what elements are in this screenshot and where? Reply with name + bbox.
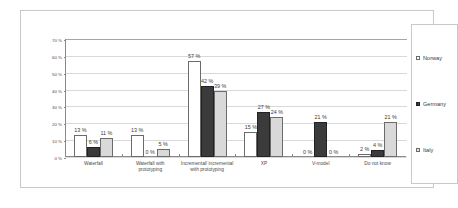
bar-slot: 21 % <box>384 39 397 157</box>
bar-germany[interactable] <box>201 86 214 157</box>
bar-slot: 11 % <box>100 39 113 157</box>
bar-value-label: 13 % <box>74 127 86 133</box>
category-separator <box>292 154 293 157</box>
bar-value-label: 6 % <box>89 139 98 145</box>
x-axis-labels: WaterfallWaterfall with prototypingIncre… <box>65 161 406 174</box>
y-axis-tick-label: 70 % <box>52 38 62 43</box>
y-axis-tick-label: 10 % <box>52 139 62 144</box>
bar-slot: 2 % <box>358 39 371 157</box>
bar-group-bars: 13 %6 %11 % <box>65 39 122 157</box>
bar-slot: 0 % <box>144 39 157 157</box>
bar-value-label: 39 % <box>214 83 226 89</box>
chart-frame: 0 %10 %20 %30 %40 %50 %60 %70 % 13 %6 %1… <box>20 10 434 188</box>
bar-slot: 39 % <box>214 39 227 157</box>
legend-swatch-icon <box>416 56 420 60</box>
bar-value-label: 15 % <box>245 124 257 130</box>
x-axis-category-label: Waterfall with prototyping <box>122 161 179 174</box>
bar-slot: 0 % <box>327 39 340 157</box>
bar-germany[interactable] <box>314 122 327 157</box>
y-axis-tick-label: 50 % <box>52 71 62 76</box>
bar-italy[interactable] <box>270 117 283 157</box>
bar-norway[interactable] <box>188 61 201 157</box>
bar-slot: 5 % <box>157 39 170 157</box>
category-separator <box>235 154 236 157</box>
bar-slot: 42 % <box>201 39 214 157</box>
bar-slot: 57 % <box>188 39 201 157</box>
legend-label: Germany <box>423 101 446 108</box>
bar-group: 2 %4 %21 % <box>349 39 406 157</box>
y-axis-tick-label: 60 % <box>52 54 62 59</box>
bar-group-bars: 2 %4 %21 % <box>349 39 406 157</box>
bar-group: 15 %27 %24 % <box>235 39 292 157</box>
bar-value-label: 24 % <box>271 109 283 115</box>
x-axis-category-label: Incremental/ incremental with prototypin… <box>179 161 236 174</box>
legend-swatch-icon <box>416 102 420 106</box>
bar-slot: 15 % <box>244 39 257 157</box>
legend-item-norway[interactable]: Norway <box>412 55 457 62</box>
bar-group-bars: 13 %0 %5 % <box>122 39 179 157</box>
gridline: 0 % <box>66 157 407 158</box>
bar-italy[interactable] <box>384 122 397 157</box>
bar-group: 0 %21 %0 % <box>292 39 349 157</box>
bar-italy[interactable] <box>157 149 170 157</box>
bar-slot: 13 % <box>131 39 144 157</box>
y-axis-tick-label: 30 % <box>52 105 62 110</box>
bar-group: 13 %6 %11 % <box>65 39 122 157</box>
bar-value-label: 4 % <box>373 142 382 148</box>
bar-italy[interactable] <box>214 91 227 157</box>
x-axis-category-label: Waterfall <box>65 161 122 174</box>
legend-item-germany[interactable]: Germany <box>412 101 457 108</box>
bar-group-bars: 0 %21 %0 % <box>292 39 349 157</box>
bar-value-label: 13 % <box>131 127 143 133</box>
bar-value-label: 21 % <box>384 114 396 120</box>
bar-group-bars: 57 %42 %39 % <box>179 39 236 157</box>
bar-slot: 13 % <box>74 39 87 157</box>
bar-norway[interactable] <box>244 132 257 157</box>
bar-slot: 27 % <box>257 39 270 157</box>
x-axis-category-label: V-model <box>292 161 349 174</box>
bar-norway[interactable] <box>131 135 144 157</box>
bar-value-label: 42 % <box>201 78 213 84</box>
chart-legend: NorwayGermanyItaly <box>411 24 458 184</box>
x-axis-category-label: XP <box>235 161 292 174</box>
bar-group: 13 %0 %5 % <box>122 39 179 157</box>
bar-value-label: 2 % <box>360 146 369 152</box>
bar-slot: 21 % <box>314 39 327 157</box>
legend-swatch-icon <box>416 148 420 152</box>
bar-germany[interactable] <box>87 147 100 157</box>
bar-value-label: 21 % <box>315 114 327 120</box>
category-separator <box>122 154 123 157</box>
bar-value-label: 0 % <box>329 149 338 155</box>
legend-label: Italy <box>423 147 433 154</box>
bar-value-label: 27 % <box>258 104 270 110</box>
legend-item-italy[interactable]: Italy <box>412 147 457 154</box>
bar-value-label: 57 % <box>188 53 200 59</box>
bar-italy[interactable] <box>100 138 113 157</box>
bar-value-label: 0 % <box>146 149 155 155</box>
bar-norway[interactable] <box>358 154 371 157</box>
bar-value-label: 0 % <box>303 149 312 155</box>
bar-value-label: 5 % <box>159 141 168 147</box>
bar-slot: 0 % <box>301 39 314 157</box>
x-axis-category-label: Do not know <box>349 161 406 174</box>
bar-value-label: 11 % <box>100 130 112 136</box>
bar-germany[interactable] <box>371 150 384 157</box>
bar-group-bars: 15 %27 %24 % <box>235 39 292 157</box>
y-axis-tick-label: 20 % <box>52 122 62 127</box>
y-axis-tick-mark <box>64 158 66 159</box>
legend-label: Norway <box>423 55 442 62</box>
category-separator <box>179 154 180 157</box>
y-axis-tick-label: 0 % <box>54 156 62 161</box>
bar-norway[interactable] <box>74 135 87 157</box>
bar-group: 57 %42 %39 % <box>179 39 236 157</box>
bar-slot: 24 % <box>270 39 283 157</box>
bar-slot: 4 % <box>371 39 384 157</box>
category-separator <box>349 154 350 157</box>
bar-slot: 6 % <box>87 39 100 157</box>
bar-groups: 13 %6 %11 %13 %0 %5 %57 %42 %39 %15 %27 … <box>65 39 406 157</box>
bar-germany[interactable] <box>257 112 270 158</box>
y-axis-tick-label: 40 % <box>52 88 62 93</box>
